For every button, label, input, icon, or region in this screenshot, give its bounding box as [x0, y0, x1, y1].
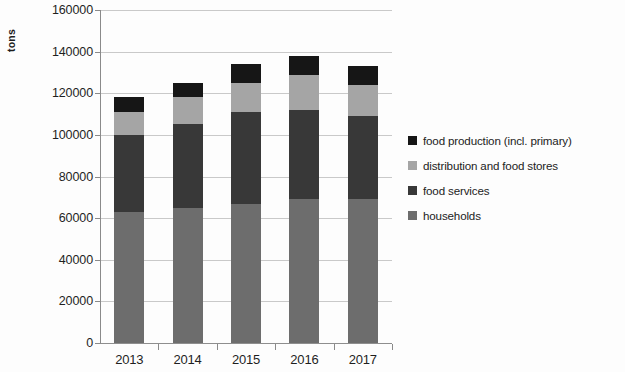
- bar-segment-food_production-2015[interactable]: [231, 64, 261, 83]
- stacked-bar[interactable]: [231, 10, 261, 343]
- x-axis-tick-label-2014: 2014: [158, 352, 218, 367]
- bar-segment-food_production-2014[interactable]: [173, 83, 203, 98]
- stacked-bar[interactable]: [348, 10, 378, 343]
- stacked-bar[interactable]: [114, 10, 144, 343]
- bar-segment-distribution-2016[interactable]: [289, 75, 319, 110]
- legend-swatch-icon: [408, 186, 417, 195]
- y-axis-tick-label: 140000: [5, 46, 93, 58]
- bar-segment-food_services-2014[interactable]: [173, 124, 203, 207]
- x-axis-tick-mark: [275, 344, 276, 350]
- legend-label: food production (incl. primary): [423, 134, 572, 147]
- bar-segment-food_services-2013[interactable]: [114, 135, 144, 212]
- bar-segment-households-2017[interactable]: [348, 199, 378, 343]
- bar-segment-food_production-2016[interactable]: [289, 56, 319, 75]
- y-axis-tick-label: 100000: [5, 129, 93, 141]
- bar-segment-distribution-2013[interactable]: [114, 112, 144, 135]
- chart-legend: food production (incl. primary)distribut…: [408, 128, 622, 228]
- x-axis-tick-label-2015: 2015: [216, 352, 276, 367]
- x-axis-tick-label-2017: 2017: [333, 352, 393, 367]
- bar-segment-distribution-2017[interactable]: [348, 85, 378, 116]
- bar-segment-food_production-2017[interactable]: [348, 66, 378, 85]
- x-axis-tick-mark: [217, 344, 218, 350]
- legend-swatch-icon: [408, 136, 417, 145]
- stacked-bar[interactable]: [289, 10, 319, 343]
- bar-group-2013[interactable]: [114, 10, 144, 343]
- y-axis-tick-label: 20000: [5, 295, 93, 307]
- y-axis-tick-label: 40000: [5, 254, 93, 266]
- legend-item-0[interactable]: food production (incl. primary): [408, 128, 622, 153]
- bar-group-2016[interactable]: [289, 10, 319, 343]
- legend-swatch-icon: [408, 161, 417, 170]
- bar-group-2017[interactable]: [348, 10, 378, 343]
- bar-segment-households-2014[interactable]: [173, 208, 203, 343]
- bar-segment-food_services-2016[interactable]: [289, 110, 319, 199]
- bar-segment-distribution-2015[interactable]: [231, 83, 261, 112]
- y-axis-tick-mark: [95, 135, 101, 136]
- legend-swatch-icon: [408, 211, 417, 220]
- stacked-bar[interactable]: [173, 10, 203, 343]
- y-axis-tick-mark: [95, 260, 101, 261]
- legend-label: households: [423, 209, 481, 222]
- x-axis-tick-mark: [392, 344, 393, 350]
- y-axis-tick-mark: [95, 52, 101, 53]
- y-axis-tick-label: 160000: [5, 4, 93, 16]
- bar-segment-food_services-2017[interactable]: [348, 116, 378, 199]
- bar-group-2015[interactable]: [231, 10, 261, 343]
- y-axis-tick-label: 120000: [5, 87, 93, 99]
- y-axis-tick-mark: [95, 10, 101, 11]
- legend-item-2[interactable]: food services: [408, 178, 622, 203]
- y-axis-tick-label: 80000: [5, 171, 93, 183]
- axis-baseline: [100, 343, 392, 344]
- y-axis-tick-mark: [95, 93, 101, 94]
- y-axis-tick-mark: [95, 218, 101, 219]
- bar-segment-households-2015[interactable]: [231, 204, 261, 343]
- bar-group-2014[interactable]: [173, 10, 203, 343]
- bar-segment-households-2013[interactable]: [114, 212, 144, 343]
- x-axis-tick-mark: [158, 344, 159, 350]
- legend-item-3[interactable]: households: [408, 203, 622, 228]
- legend-label: distribution and food stores: [423, 159, 558, 172]
- plot-area: [100, 10, 392, 343]
- legend-label: food services: [423, 184, 489, 197]
- bar-segment-distribution-2014[interactable]: [173, 97, 203, 124]
- y-axis-tick-mark: [95, 177, 101, 178]
- bar-segment-food_production-2013[interactable]: [114, 97, 144, 112]
- y-axis-tick-mark: [95, 301, 101, 302]
- y-axis-tick-mark: [95, 343, 101, 344]
- x-axis-tick-label-2013: 2013: [99, 352, 159, 367]
- bar-segment-households-2016[interactable]: [289, 199, 319, 343]
- x-axis-tick-label-2016: 2016: [274, 352, 334, 367]
- bar-segment-food_services-2015[interactable]: [231, 112, 261, 204]
- legend-item-1[interactable]: distribution and food stores: [408, 153, 622, 178]
- stacked-column-chart: tons 02000040000600008000010000012000014…: [0, 0, 625, 372]
- x-axis-tick-mark: [334, 344, 335, 350]
- y-axis-tick-label: 60000: [5, 212, 93, 224]
- y-axis-tick-label: 0: [5, 337, 93, 349]
- y-axis-tick-labels: 0200004000060000800001000001200001400001…: [0, 0, 93, 372]
